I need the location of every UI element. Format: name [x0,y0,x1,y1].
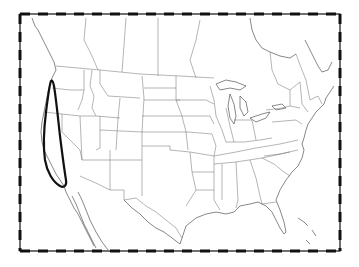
map-figure [0,0,359,267]
map-canvas [0,0,359,267]
great-lakes [216,80,286,124]
highlight-loop [44,81,66,187]
map-frame [20,14,340,251]
coastlines [32,18,334,250]
political-boundaries [44,18,322,238]
